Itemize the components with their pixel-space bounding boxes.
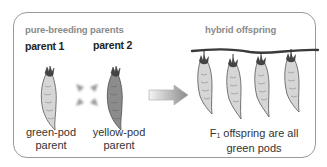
offspring-caption-line2: green pods	[196, 142, 312, 155]
yellow-pod-icon	[104, 64, 130, 132]
right-arrow-icon	[148, 84, 190, 106]
cross-icon	[74, 82, 100, 108]
parent2-caption: yellow-pod parent	[86, 126, 152, 152]
offspring-pod-2	[227, 54, 241, 119]
left-section-heading: pure-breeding parents	[25, 24, 124, 35]
offspring-pods-illustration	[190, 44, 320, 124]
offspring-pod-1	[198, 51, 212, 114]
parent2-label: parent 2	[93, 39, 132, 51]
parent2-caption-line1: yellow-pod	[86, 126, 152, 139]
parent1-caption-line1: green-pod	[20, 126, 82, 139]
offspring-pod-3	[255, 52, 269, 117]
offspring-caption-rest: offspring are all	[220, 127, 298, 139]
parent1-caption: green-pod parent	[20, 126, 82, 152]
green-pod-icon	[38, 64, 64, 132]
offspring-pod-4	[285, 49, 299, 112]
right-section-heading: hybrid offspring	[205, 24, 276, 35]
parent2-caption-line2: parent	[86, 139, 152, 152]
offspring-caption-line1: F1 offspring are all	[196, 127, 312, 142]
parent1-caption-line2: parent	[20, 139, 82, 152]
offspring-caption: F1 offspring are all green pods	[196, 127, 312, 155]
parent1-label: parent 1	[25, 40, 64, 52]
